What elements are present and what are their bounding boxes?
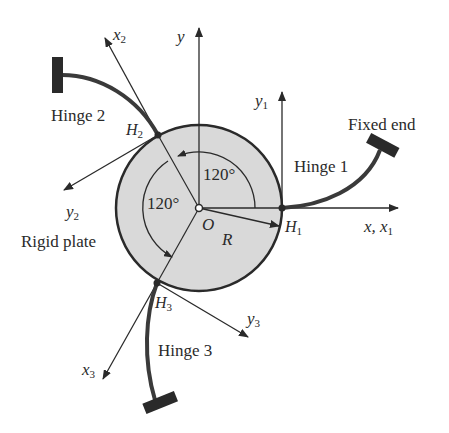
- label-x-x1: x, x1: [363, 217, 393, 237]
- label-h2: H2: [125, 121, 143, 140]
- label-hinge-3: Hinge 3: [158, 341, 212, 360]
- label-angle-top: 120°: [203, 165, 235, 184]
- point-h2: [155, 132, 162, 139]
- fixed-end-2: [52, 57, 63, 93]
- label-center-o: O: [202, 215, 214, 234]
- hinge-2-beam: [62, 75, 158, 135]
- label-y3: y3: [245, 309, 261, 329]
- label-x2: x2: [112, 25, 126, 45]
- label-y2: y2: [64, 202, 79, 222]
- point-h3: [154, 280, 161, 287]
- center-point: [196, 205, 203, 212]
- label-h3: H3: [154, 294, 173, 313]
- label-hinge-1: Hinge 1: [294, 157, 348, 176]
- label-h1: H1: [284, 218, 302, 237]
- label-radius-r: R: [221, 230, 233, 249]
- label-rigid-plate: Rigid plate: [21, 232, 96, 251]
- label-y1: y1: [253, 91, 268, 111]
- label-y: y: [175, 27, 185, 46]
- label-hinge-2: Hinge 2: [51, 106, 105, 125]
- label-x3: x3: [81, 360, 96, 380]
- label-angle-left: 120°: [147, 194, 179, 213]
- point-h1: [279, 205, 286, 212]
- fixed-end-1: [366, 133, 399, 158]
- fixed-end-3: [142, 391, 178, 414]
- label-fixed-end: Fixed end: [348, 115, 416, 134]
- diagram-canvas: y x2 Hinge 2 H2 y1 Fixed end Hinge 1 120…: [0, 0, 449, 433]
